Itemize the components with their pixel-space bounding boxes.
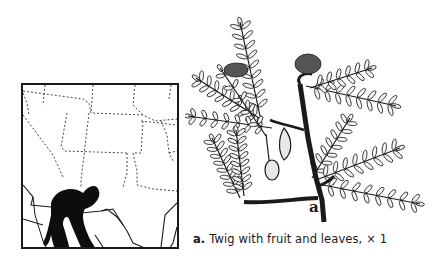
figure-caption: a.Twig with fruit and leaves,× 1 [193,232,387,246]
twig-with-fruit-and-leaves-drawing [185,8,425,230]
range-map-graphic [23,85,177,247]
figure-label: a [309,198,319,216]
range-map [21,83,179,249]
state-borders [23,85,177,191]
caption-text: Twig with fruit and leaves, [209,232,362,246]
caption-scale-value: 1 [380,232,387,246]
caption-scale-symbol: × [366,232,376,246]
caption-letter: a. [193,232,205,246]
twig-illustration [185,8,425,230]
